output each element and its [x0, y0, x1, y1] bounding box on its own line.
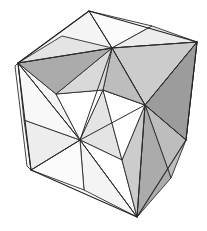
stellated-cube-figure — [0, 0, 207, 231]
figure-root — [0, 0, 207, 231]
